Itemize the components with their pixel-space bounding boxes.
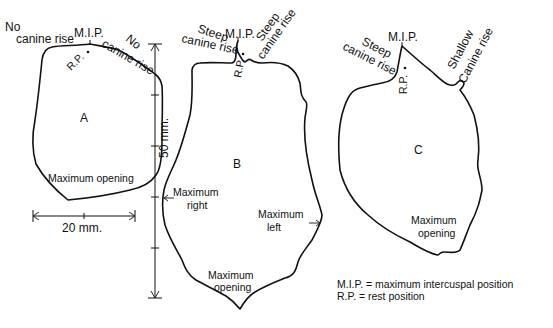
panel-b-bottom-label-2: opening xyxy=(214,281,252,293)
panel-b-max-right-label-2: right xyxy=(187,199,208,211)
panel-c-letter: C xyxy=(414,143,423,157)
panel-c-mip-label: M.I.P. xyxy=(388,30,418,44)
panel-b-max-left-label-2: left xyxy=(267,221,281,233)
panel-a-rp-dot xyxy=(87,51,90,54)
panel-c-bottom-label-1: Maximum xyxy=(411,214,457,226)
panel-b-max-left-label-1: Maximum xyxy=(258,208,304,220)
panel-a-left-label-2: canine rise xyxy=(16,32,74,46)
panel-b-letter: B xyxy=(233,157,241,171)
panel-b: Steep canine rise M.I.P. R.P. Steep cani… xyxy=(163,6,322,309)
panel-b-bottom-label-1: Maximum xyxy=(208,269,254,281)
panel-a-rp-label: R.P. xyxy=(64,50,86,72)
mandibular-movement-diagram: No canine rise M.I.P. R.P. No canine ris… xyxy=(0,0,553,328)
maximum-left-arrow-icon xyxy=(309,220,320,226)
panel-c: M.I.P. Steep canine rise R.P. Shallow Ca… xyxy=(339,25,496,255)
legend-rp-definition: R.P. = rest position xyxy=(337,290,425,302)
panel-b-mip-label: M.I.P. xyxy=(225,27,255,41)
panel-a-letter: A xyxy=(80,111,88,125)
panel-c-rp-label: R.P. xyxy=(397,75,409,94)
horizontal-scale-label: 20 mm. xyxy=(62,221,102,235)
diagram-canvas: No canine rise M.I.P. R.P. No canine ris… xyxy=(0,0,553,328)
vertical-scale: 50 mm. xyxy=(148,44,171,298)
panel-a-mip-label: M.I.P. xyxy=(74,26,104,40)
horizontal-scale: 20 mm. xyxy=(33,210,135,235)
panel-a-bottom-label: Maximum opening xyxy=(48,172,134,184)
panel-a: No canine rise M.I.P. R.P. No canine ris… xyxy=(5,20,162,200)
panel-b-max-right-label-1: Maximum xyxy=(173,186,219,198)
panel-b-rp-dot xyxy=(242,53,245,56)
panel-b-rp-label: R.P. xyxy=(231,57,246,78)
vertical-scale-label: 50 mm. xyxy=(157,118,171,158)
panel-c-bottom-label-2: opening xyxy=(418,227,456,239)
panel-c-rp-dot xyxy=(404,67,407,70)
legend: M.I.P. = maximum intercuspal position R.… xyxy=(337,278,513,302)
legend-mip-definition: M.I.P. = maximum intercuspal position xyxy=(337,278,513,290)
